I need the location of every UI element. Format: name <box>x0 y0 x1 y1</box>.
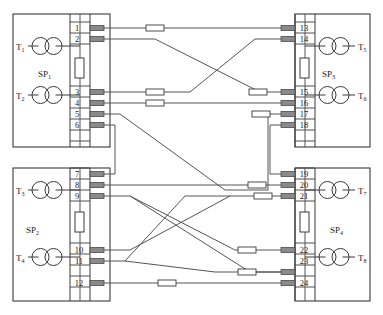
svg-text:17: 17 <box>300 109 309 119</box>
diagram-canvas: 1 2 3 4 5 6 7 8 9 10 11 12 13 14 15 16 1… <box>0 0 383 315</box>
terminal-lugs <box>90 26 295 286</box>
wire-3-14 <box>90 39 295 92</box>
device-labels: T1 T2 SP1 T3 T4 SP2 T5 T6 SP3 T7 T8 SP4 <box>16 42 367 264</box>
svg-text:23: 23 <box>300 256 309 266</box>
svg-text:22: 22 <box>300 245 309 255</box>
svg-text:5: 5 <box>75 109 79 119</box>
wiring-diagram: 1 2 3 4 5 6 7 8 9 10 11 12 13 14 15 16 1… <box>0 0 383 315</box>
label-SP3: SP3 <box>322 69 335 80</box>
wire-2-15 <box>90 39 295 92</box>
svg-text:2: 2 <box>75 34 79 44</box>
wire-6-7 <box>90 125 115 174</box>
resistor-sp1-internal <box>75 58 84 78</box>
svg-text:18: 18 <box>300 120 309 130</box>
label-SP4: SP4 <box>330 225 343 236</box>
svg-text:13: 13 <box>300 23 309 33</box>
label-SP1: SP1 <box>38 69 51 80</box>
svg-text:6: 6 <box>75 120 79 130</box>
wire-11-23 <box>90 261 295 272</box>
resistor-sp3-internal <box>300 58 309 78</box>
resistor-sp2-internal <box>75 212 84 232</box>
svg-text:8: 8 <box>75 180 79 190</box>
svg-text:11: 11 <box>75 256 83 266</box>
svg-text:12: 12 <box>75 278 84 288</box>
label-T1: T1 <box>16 42 25 53</box>
svg-text:4: 4 <box>75 98 80 108</box>
label-T6: T6 <box>358 91 367 102</box>
svg-text:16: 16 <box>300 98 309 108</box>
wire-18-19 <box>270 125 295 174</box>
label-T7: T7 <box>358 186 367 197</box>
label-T2: T2 <box>16 91 25 102</box>
label-T3: T3 <box>16 186 25 197</box>
svg-text:1: 1 <box>75 23 79 33</box>
label-T5: T5 <box>358 42 367 53</box>
svg-text:24: 24 <box>300 278 309 288</box>
label-SP2: SP2 <box>26 225 39 236</box>
svg-text:21: 21 <box>300 191 309 201</box>
wire-5-17 <box>90 114 295 190</box>
svg-text:10: 10 <box>75 245 84 255</box>
label-T4: T4 <box>16 253 25 264</box>
wire-9-22 <box>90 196 295 250</box>
inline-resistors <box>146 25 272 286</box>
svg-text:7: 7 <box>75 169 79 179</box>
svg-text:15: 15 <box>300 87 309 97</box>
label-T8: T8 <box>358 253 367 264</box>
wire-11-23-diag <box>125 196 230 261</box>
svg-text:3: 3 <box>75 87 79 97</box>
resistor-sp4-internal <box>300 212 309 232</box>
svg-text:9: 9 <box>75 191 79 201</box>
wire-10-21 <box>90 196 295 250</box>
wire-9-22-diag <box>130 196 295 272</box>
svg-text:19: 19 <box>300 169 309 179</box>
svg-text:14: 14 <box>300 34 309 44</box>
svg-text:20: 20 <box>300 180 309 190</box>
